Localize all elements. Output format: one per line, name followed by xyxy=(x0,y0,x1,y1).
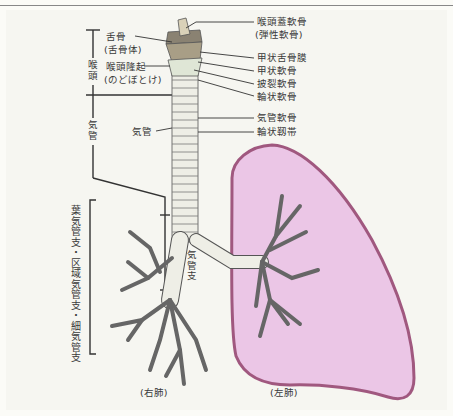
epiglottic-cartilage-label: 喉頭蓋軟骨 xyxy=(257,16,307,27)
annular-ligament-label: 輪状靱帯 xyxy=(257,126,297,137)
left-lung-caption: (左肺) xyxy=(270,387,297,398)
larynx-bracket-label: 喉頭 xyxy=(87,60,98,81)
bronchi-bracket-label: 葉気管支・区域気管支・細気管支 xyxy=(69,205,80,363)
tracheal-cartilage-label: 気管軟骨 xyxy=(257,112,297,123)
thyroid-cartilage-label: 甲状軟骨 xyxy=(257,65,297,76)
epiglottic-cartilage-note: (弾性軟骨) xyxy=(255,29,302,40)
trachea-label: 気管 xyxy=(132,126,152,137)
trachea-bracket-label: 気管 xyxy=(87,120,98,141)
arytenoid-cartilage-label: 披裂軟骨 xyxy=(257,78,297,89)
trachea-rings xyxy=(172,72,198,242)
respiratory-diagram xyxy=(0,0,453,416)
hyoid-label: 舌骨 xyxy=(106,31,126,42)
bronchus-label: 気管支 xyxy=(186,250,197,282)
hyoid-note: (舌骨体) xyxy=(104,44,141,55)
larynx xyxy=(166,18,202,76)
laryngeal-prominence-note: (のどぼとけ) xyxy=(104,74,161,85)
laryngeal-prominence-label: 喉頭隆起 xyxy=(106,61,146,72)
right-lung-caption: (右肺) xyxy=(140,387,167,398)
cricoid-cartilage-label: 輪状軟骨 xyxy=(257,91,297,102)
thyrohyoid-membrane-label: 甲状舌骨膜 xyxy=(257,52,307,63)
